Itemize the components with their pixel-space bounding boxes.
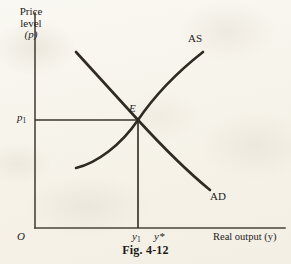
aggregate-demand-curve-label: AD — [210, 191, 226, 203]
aggregate-supply-curve — [76, 52, 203, 168]
price-tick-label-p1: p1 — [17, 112, 26, 125]
aggregate-supply-curve-label: AS — [188, 33, 202, 45]
output-tick-label-y-star: y* — [154, 231, 164, 243]
economics-figure: Price level (p) O p1 y1 y* Real output (… — [0, 0, 291, 264]
equilibrium-point-label: E — [129, 103, 136, 115]
price-tick-subscript: 1 — [23, 116, 27, 125]
output-tick-label-y1: y1 — [132, 231, 141, 244]
y-axis-title-line3: (p) — [8, 29, 54, 41]
origin-label: O — [17, 231, 25, 243]
aggregate-demand-curve — [76, 52, 210, 190]
y-axis-title: Price level (p) — [8, 6, 54, 41]
x-axis-title: Real output (y) — [213, 231, 277, 242]
figure-caption: Fig. 4-12 — [0, 243, 291, 258]
y-axis-title-line1: Price — [8, 6, 54, 18]
